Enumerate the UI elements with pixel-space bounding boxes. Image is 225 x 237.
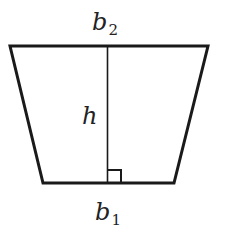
height-label-main: h: [82, 102, 97, 130]
trapezoid-outline: [10, 46, 208, 183]
bottom-base-label-subscript: 1: [111, 211, 121, 229]
trapezoid-diagram: b2 h b1: [0, 0, 225, 237]
top-base-label-main: b: [92, 8, 107, 36]
top-base-label: b2: [92, 10, 118, 34]
top-base-label-subscript: 2: [108, 21, 118, 39]
right-angle-marker: [108, 170, 122, 183]
bottom-base-label: b1: [95, 200, 121, 224]
height-label: h: [82, 104, 97, 128]
bottom-base-label-main: b: [95, 198, 110, 226]
